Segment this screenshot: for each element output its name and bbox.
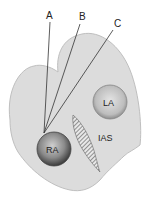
label-b: B xyxy=(79,11,86,22)
label-a: A xyxy=(46,10,53,21)
heart-diagram: A B C LA RA IAS xyxy=(0,0,147,197)
label-ra: RA xyxy=(46,145,59,155)
label-ias: IAS xyxy=(98,133,113,143)
label-la: LA xyxy=(103,98,114,108)
label-c: C xyxy=(114,18,121,29)
